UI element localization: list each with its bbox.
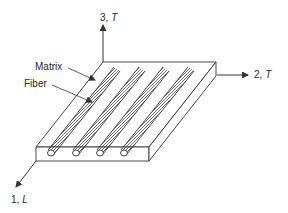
diagram-canvas: 3, T 2, T 1, L Matrix Fiber [0, 0, 288, 213]
lamina-drawing [0, 0, 288, 213]
axis-1-label: 1, L [11, 195, 28, 205]
axis-2-label: 2, T [254, 70, 271, 80]
axis-1-arrow [16, 161, 36, 187]
matrix-leader [68, 68, 95, 80]
matrix-label: Matrix [35, 62, 62, 72]
fiber-label: Fiber [24, 79, 47, 89]
axis-3-label: 3, T [100, 13, 117, 23]
